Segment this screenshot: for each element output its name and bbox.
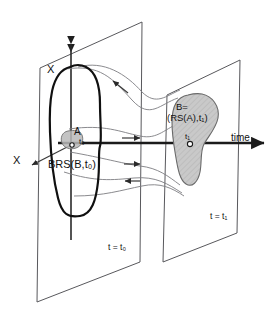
set-b-label-line1: B=: [176, 102, 188, 112]
axis-label-time: time: [231, 133, 250, 144]
tick-marker-t0: [70, 143, 74, 147]
time-tick-label-t1: t₁: [185, 133, 190, 142]
flow-curve-outer-bottom: [74, 185, 184, 196]
set-b-label-line2: (RS(A),t₁): [167, 113, 208, 123]
brs-region-label: BRS(B,t₀): [48, 159, 96, 171]
plane-label-t0: t = t₀: [108, 243, 126, 252]
flow-arrow-1: [113, 81, 128, 93]
axis-label-x-top: X: [47, 64, 54, 76]
tick-marker-t1: [187, 141, 192, 146]
flow-curve-upper-mid: [69, 122, 182, 137]
plane-label-t1: t = t₁: [210, 212, 227, 221]
diagram-svg: [0, 0, 272, 321]
set-a-time-label: t₀: [79, 138, 85, 147]
diagram-canvas: X X A t₀ BRS(B,t₀) B= (RS(A),t₁) t₁ time…: [0, 0, 272, 321]
axis-label-x-side: X: [13, 155, 20, 167]
